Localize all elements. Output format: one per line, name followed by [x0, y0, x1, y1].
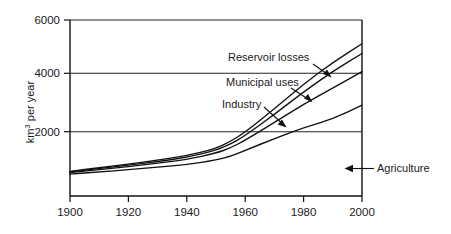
y-axis-title: km3 per year — [23, 81, 36, 144]
annotation-label-municipal-uses: Municipal uses — [226, 76, 299, 88]
chart-background — [0, 0, 451, 234]
annotation-label-industry: Industry — [222, 98, 262, 110]
y-axis-title-text: km3 per year — [23, 81, 36, 144]
annotation-label-agriculture: Agriculture — [377, 162, 430, 174]
x-tick-label-1960: 1960 — [232, 206, 258, 218]
x-tick-label-1920: 1920 — [116, 206, 142, 218]
y-tick-label-4000: 4000 — [34, 67, 60, 79]
annotation-label-reservoir-losses: Reservoir losses — [228, 51, 310, 63]
x-tick-label-1980: 1980 — [291, 206, 317, 218]
y-tick-label-6000: 6000 — [34, 14, 60, 26]
y-axis-title-rest: per year — [24, 81, 36, 125]
x-tick-label-2000: 2000 — [349, 206, 375, 218]
water-use-chart-figure: 6000 4000 2000 1900 1920 1940 1960 1980 … — [0, 0, 451, 234]
chart-svg: 6000 4000 2000 1900 1920 1940 1960 1980 … — [0, 0, 451, 234]
x-tick-label-1900: 1900 — [57, 206, 83, 218]
x-tick-label-1940: 1940 — [174, 206, 200, 218]
y-tick-label-2000: 2000 — [34, 126, 60, 138]
y-axis-title-base: km — [24, 128, 36, 143]
